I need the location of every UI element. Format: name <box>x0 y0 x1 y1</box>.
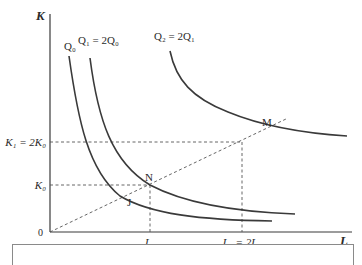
isoquant-q0-label: Q₀ <box>64 40 76 52</box>
isoquant-q2-label: Q₂ = 2Q₁ <box>154 30 195 42</box>
k0-tick-label: K₀ <box>34 179 46 191</box>
isoquant-q1-label: Q₁ = 2Q₀ <box>78 34 119 46</box>
point-j-label: J <box>127 196 132 208</box>
point-n-label: N <box>145 171 153 183</box>
isoquant-q0 <box>69 56 272 221</box>
y-axis-label: K <box>35 8 46 23</box>
isoquant-q2 <box>170 51 347 136</box>
caption-box <box>12 244 354 265</box>
k1-tick-label: K₁ = 2K₀ <box>4 136 46 148</box>
isoquant-q1 <box>90 58 295 214</box>
origin-label: 0 <box>38 227 43 238</box>
point-m-label: M <box>262 116 272 128</box>
expansion-ray <box>50 119 286 232</box>
